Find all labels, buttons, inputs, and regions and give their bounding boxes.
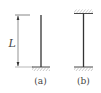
arrow-up-icon — [17, 16, 20, 21]
panel-b — [74, 10, 93, 72]
arrow-down-icon — [17, 62, 20, 67]
hatch-base-a — [32, 68, 50, 72]
hatch-top-b — [74, 10, 93, 14]
column-diagram: L (a) (b) — [0, 0, 101, 93]
panel-a — [15, 15, 50, 71]
panel-a-label: (a) — [34, 76, 46, 86]
dimension-label: L — [8, 37, 16, 50]
panel-b-label: (b) — [77, 76, 90, 86]
hatch-base-b — [74, 68, 93, 72]
